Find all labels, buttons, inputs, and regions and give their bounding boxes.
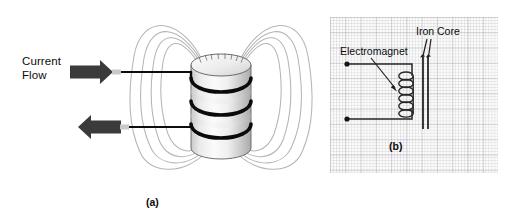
panel-a-drawing bbox=[0, 0, 320, 219]
current-flow-arrow-right bbox=[70, 60, 121, 84]
panel-b-drawing bbox=[327, 14, 502, 176]
solenoid-cylinder bbox=[191, 54, 251, 160]
panel-b-caption: (b) bbox=[389, 140, 402, 152]
electromagnet-coil-symbol bbox=[399, 72, 413, 117]
lead-wires bbox=[108, 72, 200, 127]
electromagnet-label: Electromagnet bbox=[340, 45, 408, 57]
iron-core-label: Iron Core bbox=[416, 25, 460, 37]
terminal-dot-top bbox=[344, 61, 349, 66]
iron-core-bars bbox=[423, 57, 428, 129]
terminal-dot-bottom bbox=[344, 116, 349, 121]
current-flow-arrow-left bbox=[78, 115, 129, 139]
terminal-dots bbox=[344, 61, 349, 121]
panel-a-caption: (a) bbox=[146, 196, 159, 208]
panel-a-electromagnet-illustration: Current Flow (a) bbox=[0, 0, 320, 219]
current-flow-label: Current Flow bbox=[22, 55, 61, 82]
panel-b-schematic: Electromagnet Iron Core (b) bbox=[327, 14, 502, 176]
figure-root: Current Flow (a) bbox=[0, 0, 507, 219]
